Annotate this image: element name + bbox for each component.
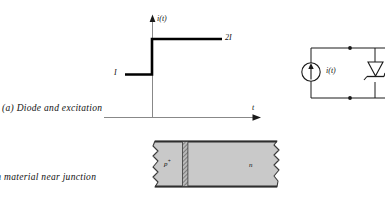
n-region-label: n (249, 161, 253, 169)
figure-root: i(t) 2I I t (a) Diode and excitation (0, 0, 385, 200)
semiconductor-body (153, 141, 279, 187)
p-region-superscript: + (168, 158, 172, 164)
p-region-label: p+ (164, 158, 171, 168)
caption-part-b: ation of n material near junction (0, 172, 96, 182)
semiconductor-diagram (0, 0, 385, 200)
